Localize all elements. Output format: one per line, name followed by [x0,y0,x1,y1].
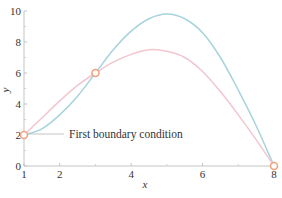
boundary-marker [92,70,99,77]
solution-curve-blue [24,14,274,166]
y-tick-label: 8 [16,36,22,48]
series-group [24,14,274,166]
x-axis-label: x [142,178,148,190]
x-tick-label: 1 [21,168,27,180]
markers-group [21,70,278,170]
x-tick-label: 2 [57,168,63,180]
y-tick-label: 4 [16,98,22,110]
x-tick-label: 4 [128,168,134,180]
y-tick-label: 6 [16,67,22,79]
annotation-first-boundary-condition: First boundary condition [69,128,183,141]
chart: 0246810 12468 x y First boundary conditi… [0,0,282,198]
solution-curve-pink [24,50,274,166]
boundary-marker [271,163,278,170]
x-tick-label: 6 [200,168,206,180]
axes: 0246810 12468 [10,5,277,180]
y-axis-label: y [0,87,11,93]
boundary-marker [21,132,28,139]
y-tick-label: 10 [10,5,22,17]
